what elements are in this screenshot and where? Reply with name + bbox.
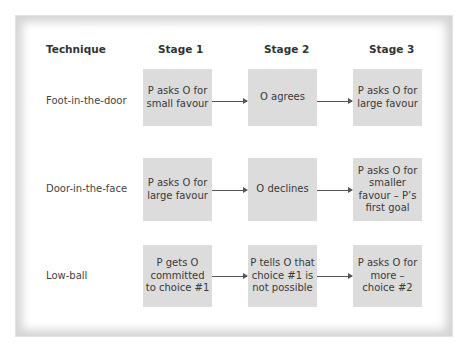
arrow-icon [212, 101, 247, 102]
row2-stage3-box: P asks O for smaller favour – P’s first … [353, 158, 422, 221]
row3-stage1-box: P gets O committed to choice #1 [143, 245, 212, 307]
header-stage-2: Stage 2 [264, 43, 309, 55]
row2-stage1-box: P asks O for large favour [143, 158, 212, 221]
header-stage-1: Stage 1 [158, 43, 203, 55]
row1-stage1-box: P asks O for small favour [143, 69, 212, 126]
arrow-icon [317, 276, 352, 277]
arrow-icon [317, 101, 352, 102]
header-technique: Technique [46, 43, 106, 55]
technique-foot-in-the-door: Foot-in-the-door [46, 95, 127, 106]
row1-stage2-box: O agrees [248, 69, 317, 126]
arrow-icon [212, 276, 247, 277]
row3-stage3-box: P asks O for more – choice #2 [353, 245, 422, 307]
arrow-icon [212, 190, 247, 191]
header-stage-3: Stage 3 [369, 43, 414, 55]
arrow-icon [317, 190, 352, 191]
technique-low-ball: Low-ball [46, 270, 87, 281]
row2-stage2-box: O declines [248, 158, 317, 221]
technique-door-in-the-face: Door-in-the-face [46, 183, 127, 194]
row3-stage2-box: P tells O that choice #1 is not possible [248, 245, 317, 307]
row1-stage3-box: P asks O for large favour [353, 69, 422, 126]
